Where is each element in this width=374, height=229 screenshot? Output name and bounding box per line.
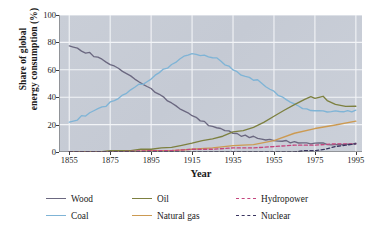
legend-label: Natural gas — [157, 211, 200, 221]
y-axis-tick-labels: 020406080100 — [34, 15, 56, 152]
chart-canvas — [59, 15, 362, 152]
x-tick-label: 1875 — [102, 155, 119, 165]
chart-figure: Share of global energy consumption (%) 0… — [0, 0, 374, 229]
legend-swatch-icon — [132, 215, 152, 216]
x-tick-label: 1915 — [184, 155, 201, 165]
y-tick-label: 80 — [48, 38, 57, 47]
y-tick-label: 20 — [48, 120, 57, 129]
legend-item-oil: Oil — [132, 190, 236, 207]
legend-label: Coal — [71, 211, 89, 221]
chart-legend: WoodOilHydropowerCoalNatural gasNuclear — [46, 190, 346, 224]
legend-swatch-icon — [46, 215, 66, 216]
x-tick-label: 1995 — [347, 155, 364, 165]
legend-item-nuclear: Nuclear — [236, 207, 346, 224]
x-tick-label: 1935 — [225, 155, 242, 165]
legend-label: Wood — [71, 194, 93, 204]
y-tick-label: 60 — [48, 66, 57, 75]
y-tick-label: 40 — [48, 93, 57, 102]
x-tick-label: 1955 — [265, 155, 282, 165]
y-tick-label: 100 — [43, 11, 56, 20]
y-axis-title-line1: Share of global — [18, 28, 30, 91]
legend-swatch-icon — [46, 198, 66, 199]
plot-area — [59, 15, 362, 152]
legend-label: Nuclear — [261, 211, 290, 221]
legend-swatch-icon — [236, 198, 256, 199]
legend-swatch-icon — [132, 198, 152, 199]
legend-swatch-icon — [236, 215, 256, 216]
legend-item-coal: Coal — [46, 207, 132, 224]
x-tick-label: 1895 — [143, 155, 160, 165]
x-tick-label: 1975 — [306, 155, 323, 165]
y-tick-mark — [56, 152, 59, 153]
x-tick-label: 1855 — [61, 155, 78, 165]
x-axis-title-text: Year — [163, 168, 212, 179]
x-axis-title: Year — [0, 168, 374, 179]
x-axis-tick-labels: 18551875189519151935195519751995 — [59, 155, 362, 167]
legend-label: Oil — [157, 194, 169, 204]
legend-item-wood: Wood — [46, 190, 132, 207]
legend-item-natural-gas: Natural gas — [132, 207, 236, 224]
legend-label: Hydropower — [261, 194, 308, 204]
series-line-coal — [69, 54, 356, 123]
series-line-wood — [69, 46, 356, 145]
legend-item-hydropower: Hydropower — [236, 190, 346, 207]
